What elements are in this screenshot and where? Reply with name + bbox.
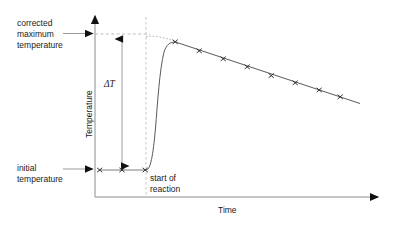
corrected-maximum-temperature-label: corrected maximum temperature xyxy=(17,18,79,51)
y-axis-label: Temperature xyxy=(84,90,95,138)
temperature-curve xyxy=(146,42,360,170)
start-of-reaction-label: start of reaction xyxy=(150,173,210,195)
delta-t-label: ΔT xyxy=(104,79,115,90)
x-axis-label: Time xyxy=(218,205,237,216)
temperature-time-diagram: corrected maximum temperature initial te… xyxy=(0,0,397,229)
initial-temperature-label: initial temperature xyxy=(17,163,79,185)
extrapolation-line xyxy=(146,36,177,42)
data-point-markers xyxy=(97,40,343,173)
